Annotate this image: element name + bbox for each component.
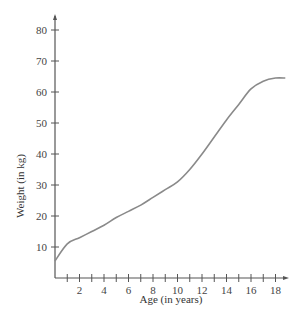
y-axis-arrow-icon <box>53 14 57 20</box>
x-tick-label: 4 <box>101 284 107 296</box>
weight-vs-age-chart: 24681012141618 1020304050607080 Age (in … <box>0 0 297 321</box>
weight-curve <box>55 78 285 261</box>
x-tick-label: 14 <box>221 284 233 296</box>
x-tick-label: 16 <box>246 284 258 296</box>
y-tick-label: 50 <box>36 117 48 129</box>
x-tick-label: 6 <box>126 284 132 296</box>
x-axis-label: Age (in years) <box>140 293 203 306</box>
x-tick-label: 18 <box>270 284 282 296</box>
y-tick-label: 70 <box>36 55 48 67</box>
y-tick-label: 40 <box>36 148 48 160</box>
y-tick-label: 10 <box>36 241 48 253</box>
x-tick-label: 2 <box>77 284 83 296</box>
y-tick-label: 80 <box>36 24 48 36</box>
y-tick-label: 30 <box>36 179 48 191</box>
axes <box>53 14 289 280</box>
y-tick-label: 20 <box>36 210 48 222</box>
y-axis-label: Weight (in kg) <box>14 154 27 218</box>
y-tick-label: 60 <box>36 86 48 98</box>
x-axis-arrow-icon <box>283 276 289 280</box>
